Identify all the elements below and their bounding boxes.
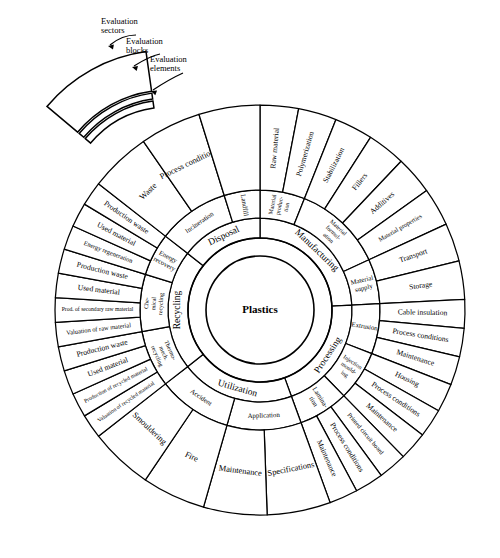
segment-label: mical — [150, 296, 157, 310]
legend-arrow-sectors-head — [108, 44, 114, 49]
legend-label-line: elements — [150, 63, 180, 73]
segment-label: Cable insulation — [398, 307, 448, 317]
element-label-3-1-1: Prod. of secondary raw material — [62, 306, 134, 312]
segment-label: Application — [248, 411, 281, 419]
figure-canvas: ManufacturingMaterialproduc-tionRaw mate… — [0, 0, 500, 558]
sunburst-diagram: ManufacturingMaterialproduc-tionRaw mate… — [0, 0, 500, 558]
segment-label: Recycling — [172, 290, 182, 329]
legend-label-sectors: Evaluationsectors — [101, 16, 139, 35]
block-label-2-0: Application — [248, 411, 281, 419]
legend-label-blocks: Evaluationblocks — [126, 36, 164, 55]
legend-wedge — [47, 52, 154, 144]
legend-arrow-elements — [153, 73, 183, 90]
legend-label-line: blocks — [126, 45, 148, 55]
legend-label-elements: Evaluationelements — [150, 54, 188, 73]
legend-label-line: sectors — [101, 25, 125, 35]
segment-label: Prod. of secondary raw material — [62, 306, 134, 312]
segment-label: Che- — [143, 297, 150, 309]
sector-label-recycling: Recycling — [172, 290, 182, 329]
center-label: Plastics — [242, 303, 278, 315]
element-label-1-0-0: Cable insulation — [398, 307, 448, 317]
